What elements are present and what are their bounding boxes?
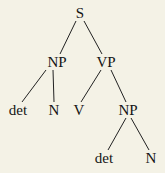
edge-vp-v: [81, 70, 101, 102]
edge-np2-n: [131, 118, 149, 150]
edge-s-np: [60, 21, 76, 54]
syntax-tree-diagram: S NP VP det N V NP det N: [0, 0, 165, 173]
node-v: V: [74, 103, 85, 118]
node-n-object: N: [146, 151, 157, 166]
edge-np2-det: [108, 118, 126, 150]
tree-edges: [0, 0, 165, 173]
edge-np-det: [22, 70, 46, 102]
edge-np-n: [53, 70, 54, 102]
node-np-subject: NP: [47, 55, 66, 70]
node-vp: VP: [96, 55, 115, 70]
node-det-subject: det: [9, 103, 27, 118]
edge-vp-np: [111, 70, 126, 102]
node-s: S: [76, 6, 84, 21]
node-n-subject: N: [49, 103, 60, 118]
node-np-object: NP: [118, 103, 137, 118]
node-det-object: det: [95, 151, 113, 166]
edge-s-vp: [84, 21, 102, 54]
